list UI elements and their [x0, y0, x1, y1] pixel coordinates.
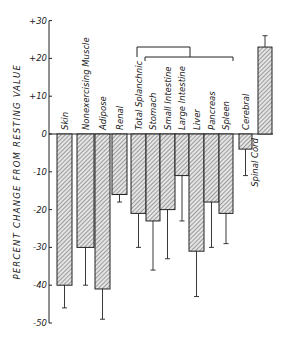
category-label: Renal: [115, 105, 125, 130]
y-tick-label: -10: [33, 167, 47, 177]
bar-total-splanchnic: [131, 134, 146, 247]
y-tick-label: +30: [29, 16, 47, 26]
bracket-upper: [137, 47, 190, 57]
category-label: Stomach: [148, 93, 158, 130]
bar-small-intestine: [160, 134, 175, 259]
y-tick-label: -50: [33, 318, 47, 328]
y-tick-label: +10: [29, 91, 47, 101]
bar-adipose: [95, 134, 110, 319]
category-label: Spinal Cord: [250, 137, 260, 186]
category-label: Cerebral: [241, 93, 251, 130]
y-tick-label: 0: [42, 129, 47, 139]
y-axis-label: PERCENT CHANGE FROM RESTING VALUE: [12, 64, 22, 280]
bar-stomach: [146, 134, 160, 270]
y-tick-label: -40: [33, 280, 47, 290]
bar-renal: [112, 134, 127, 202]
bar-liver: [189, 134, 204, 297]
y-tick-label: -20: [33, 205, 47, 215]
y-axis-title: PERCENT CHANGE FROM RESTING VALUE: [12, 64, 22, 280]
group-brackets: [137, 47, 233, 61]
bracket-lower: [145, 57, 233, 61]
bar-pancreas: [204, 134, 219, 247]
category-label: Spleen: [221, 101, 231, 130]
bar-spleen: [219, 134, 233, 244]
category-label: Small Intestine: [163, 66, 173, 130]
y-tick-label: -30: [33, 242, 47, 252]
y-tick-label: +20: [29, 53, 47, 63]
category-label: Large Intestine: [177, 66, 187, 130]
category-label: Adipose: [98, 96, 108, 131]
category-label: Skin: [60, 112, 70, 130]
bar-spinal-cord: [258, 36, 272, 134]
bar-nonexercising-muscle: [77, 134, 94, 285]
category-label: Liver: [192, 109, 202, 130]
category-label: Nonexercising Muscle: [81, 37, 91, 130]
category-label: Pancreas: [207, 91, 217, 130]
bar-chart: PERCENT CHANGE FROM RESTING VALUE +30+20…: [0, 0, 285, 338]
bar-large-intestine: [175, 134, 189, 221]
category-label: Total Splanchnic: [134, 60, 144, 130]
bar-skin: [57, 134, 72, 308]
